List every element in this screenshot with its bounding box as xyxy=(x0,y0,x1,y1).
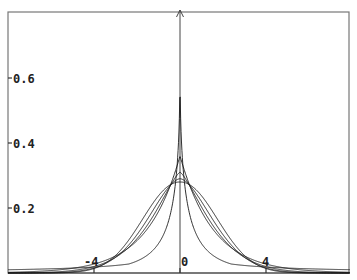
density-curve-5 xyxy=(8,182,350,273)
density-curve-4 xyxy=(8,179,350,273)
density-curve-3 xyxy=(8,172,350,273)
y-tick-label: 0.6 xyxy=(13,72,35,86)
x-tick-label: 0 xyxy=(181,255,188,269)
y-ticks: 0.20.40.6 xyxy=(8,72,35,216)
density-curve-1 xyxy=(8,97,350,270)
y-tick-label: 0.2 xyxy=(13,202,35,216)
y-tick-label: 0.4 xyxy=(13,137,35,151)
curves xyxy=(8,97,350,273)
density-chart: 0.20.40.6 -404 xyxy=(0,0,357,280)
density-curve-2 xyxy=(8,157,350,273)
